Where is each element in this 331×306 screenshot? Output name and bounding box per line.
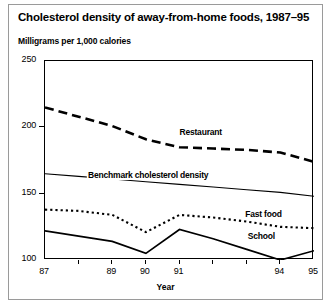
x-tick-mark <box>179 260 180 264</box>
series-label-fast-food: Fast food <box>244 209 282 219</box>
x-tick-mark <box>279 260 280 264</box>
x-axis-title: Year <box>0 282 331 292</box>
chart-title: Cholesterol density of away-from-home fo… <box>18 11 318 24</box>
x-tick-mark <box>78 260 79 264</box>
chart-subtitle: Milligrams per 1,000 calories <box>18 36 131 46</box>
figure-container: Cholesterol density of away-from-home fo… <box>0 0 331 306</box>
x-tick-label: 95 <box>301 266 325 276</box>
x-tick-label: 87 <box>32 266 56 276</box>
y-tick-label: 100 <box>10 253 36 263</box>
x-tick-label: 94 <box>267 266 291 276</box>
frame-rule-top <box>8 4 323 5</box>
y-tick-label: 250 <box>10 54 36 64</box>
series-label-benchmark-cholesterol-density: Benchmark cholesterol density <box>87 170 209 180</box>
y-tick-label: 200 <box>10 120 36 130</box>
frame-rule-bottom <box>8 299 323 300</box>
x-tick-mark <box>212 260 213 264</box>
series-lines <box>45 61 314 260</box>
frame-rule-right <box>322 4 323 300</box>
x-tick-label: 90 <box>133 266 157 276</box>
x-tick-label: 89 <box>99 266 123 276</box>
series-label-restaurant: Restaurant <box>179 127 223 137</box>
x-tick-label: 91 <box>167 266 191 276</box>
plot-area <box>44 60 313 259</box>
frame-rule-left <box>8 4 9 300</box>
series-label-school: School <box>247 231 276 241</box>
x-tick-mark <box>111 260 112 264</box>
x-tick-mark <box>246 260 247 264</box>
y-tick-label: 150 <box>10 187 36 197</box>
x-tick-mark <box>145 260 146 264</box>
